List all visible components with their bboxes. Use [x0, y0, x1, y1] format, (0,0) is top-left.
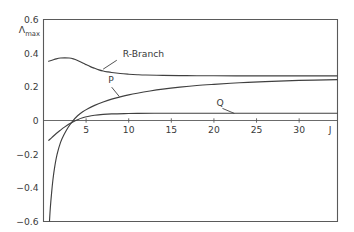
y-tick-label: 0.2 [24, 81, 39, 92]
x-tick-label: 15 [165, 124, 177, 135]
y-tick-label: 0.4 [24, 48, 39, 59]
x-tick-label: 25 [251, 124, 263, 135]
x-tick-label: 5 [83, 124, 89, 135]
chart-figure: 51015202530 0.60.40.20−0.2−0.4−0.6 R-Bra… [0, 0, 354, 232]
annotation-label-p: P [108, 74, 114, 85]
chart-background [0, 0, 354, 232]
y-tick-label: 0.6 [24, 14, 39, 25]
y-tick-label: −0.2 [16, 149, 38, 160]
lambda-max-line-chart: 51015202530 0.60.40.20−0.2−0.4−0.6 R-Bra… [0, 0, 354, 232]
y-tick-label: −0.4 [16, 182, 38, 193]
y-tick-label: −0.6 [16, 216, 38, 227]
x-tick-label: 30 [293, 124, 305, 135]
y-tick-label: 0 [33, 115, 39, 126]
x-tick-label: 10 [123, 124, 135, 135]
annotation-label-r-branch: R-Branch [123, 48, 165, 59]
x-tick-label: 20 [208, 124, 220, 135]
annotation-label-q: Q [216, 97, 223, 108]
x-axis-label: J [328, 124, 332, 135]
